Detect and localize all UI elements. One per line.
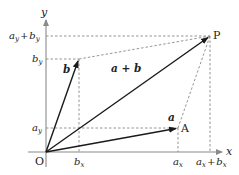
- vector-a-plus-b-label: a + b: [111, 62, 141, 74]
- x-tick-bx: bx: [74, 156, 84, 169]
- vector-b-label: b: [63, 63, 70, 75]
- origin-label: O: [35, 155, 44, 168]
- vector-a-arrow: [46, 129, 176, 153]
- x-tick-ax: ax: [173, 156, 183, 169]
- vector-b-arrow: [46, 61, 78, 152]
- parallelogram-side-ap: [178, 36, 210, 128]
- y-tick-ay: ay: [32, 122, 43, 135]
- x-tick-ax-plus-bx: ax+bx: [196, 156, 227, 169]
- vector-addition-diagram: y x O P A b a a + b ay+by by ay bx ax ax…: [0, 0, 239, 175]
- point-p-label: P: [213, 29, 221, 42]
- vector-a-label: a: [168, 111, 175, 123]
- y-tick-by: by: [32, 53, 43, 66]
- parallelogram-side-bp: [79, 36, 210, 59]
- x-axis-label: x: [226, 145, 233, 158]
- y-axis-label: y: [40, 6, 48, 19]
- point-a-label: A: [180, 122, 190, 135]
- y-tick-ay-plus-by: ay+by: [9, 30, 41, 43]
